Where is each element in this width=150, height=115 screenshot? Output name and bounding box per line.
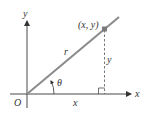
vertical-leg-label: y <box>106 54 112 65</box>
point-label: (x, y) <box>78 19 99 31</box>
angle-arc-icon <box>51 81 54 94</box>
angle-label: θ <box>57 77 62 88</box>
origin-label: O <box>14 97 21 108</box>
y-axis-label: y <box>22 8 28 19</box>
diagram-svg: y x O (x, y) r y x θ <box>0 0 150 115</box>
x-axis-label: x <box>134 88 140 99</box>
polar-coordinates-diagram: y x O (x, y) r y x θ <box>0 0 150 115</box>
right-angle-marker <box>99 88 105 94</box>
point-marker <box>102 27 107 32</box>
horizontal-leg-label: x <box>72 97 78 108</box>
radius-label: r <box>64 46 68 57</box>
